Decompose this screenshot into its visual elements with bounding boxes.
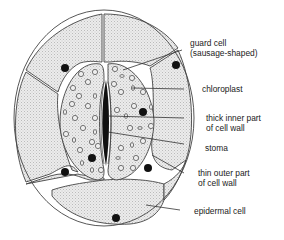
label-thin-outer-wall: thin outer part of cell wall (198, 168, 250, 188)
label-thick-inner-wall: thick inner part of cell wall (206, 113, 261, 133)
label-stoma: stoma (205, 143, 228, 153)
right-guard-cell (108, 64, 154, 180)
label-guard-cell: guard cell (sausage-shaped) (190, 38, 258, 58)
stoma-pore (102, 80, 109, 166)
label-chloroplast: chloroplast (202, 84, 243, 94)
label-epidermal-cell: epidermal cell (194, 206, 246, 216)
